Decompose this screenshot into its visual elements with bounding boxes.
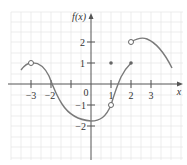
function-curve	[21, 38, 172, 121]
y-tick-label: −2	[75, 121, 86, 132]
function-graph: −3 −2 0 1 2 3 2 1 −1 −2 f(x) x	[0, 0, 187, 165]
grid	[11, 12, 183, 160]
closed-point-marker	[129, 61, 133, 65]
x-tick-label: 2	[129, 90, 134, 101]
open-point-marker	[29, 61, 34, 66]
open-point-marker	[109, 103, 114, 108]
y-axis-arrow-icon	[89, 13, 94, 19]
closed-point-marker	[109, 61, 113, 65]
x-tick-label: −3	[26, 90, 37, 101]
x-tick-label: 3	[149, 90, 154, 101]
axes	[8, 16, 180, 160]
y-axis-label: f(x)	[72, 11, 87, 23]
x-tick-label: 0	[84, 87, 89, 98]
y-tick-label: −1	[75, 100, 86, 111]
x-tick-label: −2	[45, 90, 56, 101]
y-tick-label: 1	[80, 58, 85, 69]
open-point-marker	[129, 40, 134, 45]
y-tick-label: 2	[80, 37, 85, 48]
x-axis-label: x	[176, 86, 182, 97]
